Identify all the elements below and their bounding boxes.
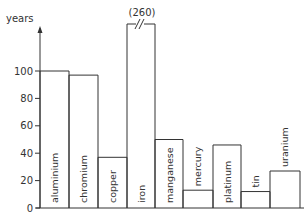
bar-label-platinum: platinum xyxy=(222,161,233,203)
bar-label-copper: copper xyxy=(107,170,118,203)
bar-uranium xyxy=(270,171,300,208)
bar-label-chromium: chromium xyxy=(78,155,89,203)
y-ticks: 020406080100 xyxy=(14,66,40,214)
y-axis-label: years xyxy=(6,13,34,24)
y-tick-label: 0 xyxy=(27,203,33,214)
y-tick-label: 40 xyxy=(20,148,33,159)
iron-value-annotation: (260) xyxy=(129,7,156,18)
bar-iron xyxy=(127,24,155,208)
bar-label-uranium: uranium xyxy=(280,127,291,167)
bar-label-mercury: mercury xyxy=(193,146,204,186)
bar-mercury xyxy=(183,190,213,208)
bar-chart: years 020406080100 aluminiumchromiumcopp… xyxy=(0,0,307,215)
bar-label-tin: tin xyxy=(250,175,261,187)
bar-tin xyxy=(241,192,270,208)
y-tick-label: 60 xyxy=(20,120,33,131)
bar-label-manganese: manganese xyxy=(164,147,175,203)
y-axis-arrow-icon xyxy=(38,26,43,33)
y-tick-label: 80 xyxy=(20,93,33,104)
y-tick-label: 20 xyxy=(20,175,33,186)
bar-label-iron: iron xyxy=(136,185,147,203)
y-tick-label: 100 xyxy=(14,66,33,77)
bars: aluminiumchromiumcopperironmanganesemerc… xyxy=(40,19,300,208)
bar-label-aluminium: aluminium xyxy=(49,153,60,203)
